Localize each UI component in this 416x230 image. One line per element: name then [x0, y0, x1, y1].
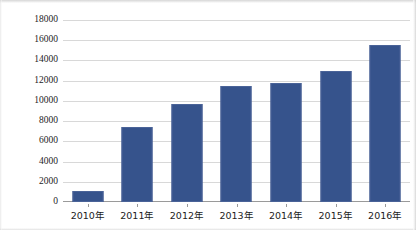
bar[interactable]: [122, 127, 153, 202]
y-axis-tick-label: 10000: [12, 96, 58, 106]
bar-slot: [63, 20, 113, 202]
y-axis-tick-label: 12000: [12, 76, 58, 86]
bar-slot: [261, 20, 311, 202]
y-axis-tick-label: 8000: [12, 116, 58, 126]
y-axis-tick-label: 2000: [12, 177, 58, 187]
x-axis-tick-mark: [187, 204, 188, 207]
bar[interactable]: [370, 45, 401, 202]
bar[interactable]: [72, 191, 103, 202]
bar[interactable]: [171, 104, 202, 202]
bar[interactable]: [221, 86, 252, 202]
x-axis-tick-mark: [137, 204, 138, 207]
y-axis-tick-labels: 0200040006000800010000120001400016000180…: [12, 0, 58, 230]
y-axis-tick-label: 6000: [12, 137, 58, 147]
bar[interactable]: [271, 83, 302, 202]
y-axis-tick-label: 0: [12, 197, 58, 207]
y-axis-tick-label: 14000: [12, 56, 58, 66]
bar-slot: [113, 20, 163, 202]
x-axis-tick-label: 2016年: [355, 210, 415, 221]
x-axis-tick-labels: 2010年2011年2012年2013年2014年2015年2016年: [63, 204, 410, 224]
bar-slot: [212, 20, 262, 202]
scan-edge-top: [0, 0, 416, 3]
bar-slot: [162, 20, 212, 202]
x-axis-tick-mark: [88, 204, 89, 207]
x-axis-tick-mark: [237, 204, 238, 207]
plot-area: [63, 20, 410, 202]
bars-layer: [63, 20, 410, 202]
x-axis-tick-mark: [385, 204, 386, 207]
bar-slot: [360, 20, 410, 202]
x-axis-tick-mark: [336, 204, 337, 207]
y-axis-tick-label: 4000: [12, 157, 58, 167]
y-axis-tick-label: 16000: [12, 35, 58, 45]
scan-edge-left: [0, 0, 2, 230]
bar-slot: [311, 20, 361, 202]
x-axis-tick-mark: [286, 204, 287, 207]
bar[interactable]: [320, 71, 351, 202]
scan-edge-bottom: [0, 228, 416, 230]
y-axis-tick-label: 18000: [12, 15, 58, 25]
bar-chart-figure: 年平均日交通量（辆/日） 020004000600080001000012000…: [0, 0, 416, 230]
